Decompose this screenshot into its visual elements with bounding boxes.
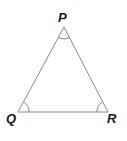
angle-arc-p [58,37,70,39]
vertex-label-q: Q [6,112,16,125]
triangle-outline [18,27,108,112]
geometry-figure: P Q R [0,0,127,141]
vertex-label-p: P [58,11,67,24]
angle-arc-q [24,102,29,112]
vertex-label-r: R [107,112,116,125]
angle-arc-r [97,102,102,112]
